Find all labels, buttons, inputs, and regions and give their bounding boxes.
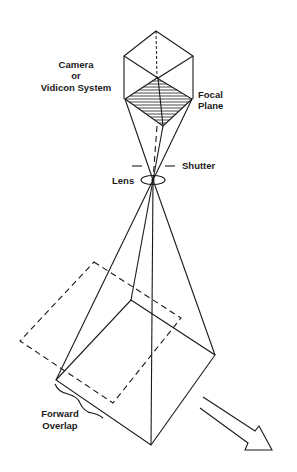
shutter-label: Shutter	[182, 160, 216, 171]
camera-label-2: or	[71, 70, 81, 81]
forward-overlap-label-2: Overlap	[42, 420, 78, 431]
lower-rays	[56, 180, 215, 445]
focal-plane-label-1: Focal	[198, 89, 223, 100]
camera-label-3: Vidicon System	[41, 82, 112, 93]
imaging-geometry-diagram: Camera or Vidicon System Focal Plane Shu…	[0, 0, 297, 472]
lens-label: Lens	[112, 175, 134, 186]
camera-label-1: Camera	[59, 59, 95, 70]
flight-direction-arrow-icon	[200, 397, 272, 450]
ground-footprint	[56, 300, 215, 445]
forward-overlap-label-1: Forward	[41, 408, 79, 419]
camera-box	[124, 31, 193, 99]
focal-plane-label-2: Plane	[198, 100, 223, 111]
